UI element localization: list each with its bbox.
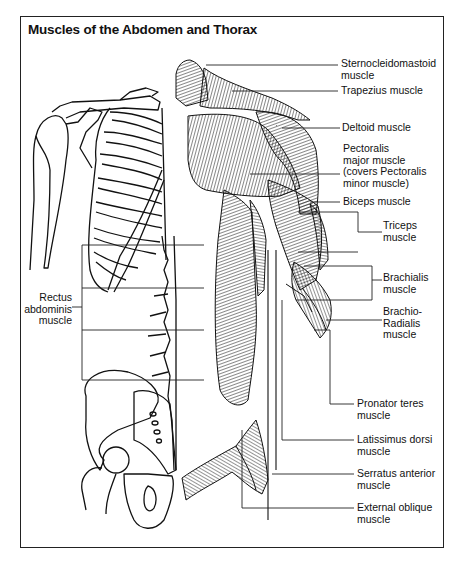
label-sternocleidomastoid: Sternocleidomastoid muscle <box>341 58 436 81</box>
label-external-oblique: External oblique muscle <box>357 502 432 525</box>
label-pronator-teres: Pronator teres muscle <box>357 398 424 421</box>
label-rectus-abdominis: Rectus abdominis muscle <box>24 292 72 327</box>
femur-head <box>103 447 129 473</box>
label-serratus-anterior: Serratus anterior muscle <box>357 468 435 491</box>
label-triceps: Triceps muscle <box>383 220 417 243</box>
trapezius-muscle <box>200 68 310 120</box>
label-brachioradialis: Brachio- Radialis muscle <box>383 306 422 341</box>
label-deltoid: Deltoid muscle <box>342 122 411 134</box>
humerus-bone <box>36 116 68 268</box>
pelvis <box>85 371 158 470</box>
label-pectoralis-major: Pectoralis major muscle (covers Pectoral… <box>343 143 426 189</box>
label-brachialis: Brachialis muscle <box>383 272 429 295</box>
muscles <box>176 60 331 500</box>
label-latissimus-dorsi: Latissimus dorsi muscle <box>357 434 432 457</box>
label-trapezius: Trapezius muscle <box>341 85 423 97</box>
label-biceps: Biceps muscle <box>343 196 411 208</box>
latissimus-dorsi-muscle <box>215 190 256 405</box>
